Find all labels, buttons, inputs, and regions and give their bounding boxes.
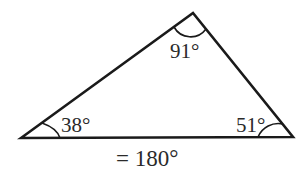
- angle-label-left: 38°: [61, 113, 90, 137]
- angle-arc-top: [174, 27, 206, 37]
- angle-label-top: 91°: [170, 39, 199, 63]
- angle-sum-label: = 180°: [116, 146, 178, 171]
- angle-label-right: 51°: [236, 113, 265, 137]
- angle-arc-left: [42, 123, 60, 138]
- triangle-diagram: 91° 38° 51° = 180°: [0, 0, 306, 174]
